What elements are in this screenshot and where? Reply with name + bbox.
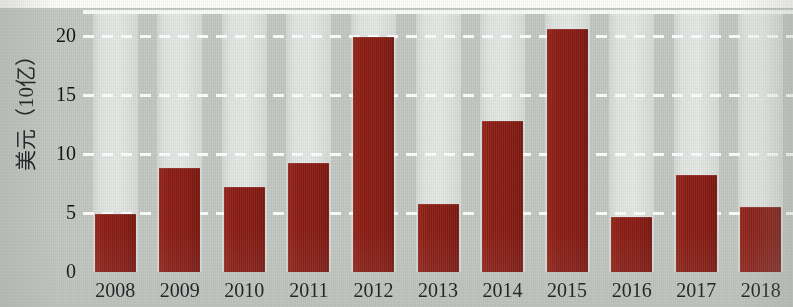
x-tick-label: 2014 (470, 278, 535, 303)
y-tick-label: 0 (28, 261, 76, 281)
x-tick-label: 2017 (664, 278, 729, 303)
x-tick-label: 2012 (341, 278, 406, 303)
x-tick-label: 2013 (406, 278, 471, 303)
bar-2014 (482, 121, 523, 272)
bar-2010 (224, 187, 265, 272)
x-tick-label: 2010 (212, 278, 277, 303)
x-axis-tick-labels: 2008200920102011201220132014201520162017… (83, 278, 793, 307)
x-tick-label: 2011 (277, 278, 342, 303)
x-tick-label: 2018 (728, 278, 793, 303)
y-axis-title: 美元（10亿） (13, 8, 39, 208)
bar-2018 (740, 207, 781, 272)
bar-2016 (611, 217, 652, 272)
x-tick-label: 2015 (535, 278, 600, 303)
bar-2012 (353, 37, 394, 272)
bar-2008 (95, 214, 136, 272)
bar-2013 (418, 204, 459, 272)
bar-2015 (547, 29, 588, 272)
gridline (83, 153, 793, 156)
gridline (83, 35, 793, 38)
gridline (83, 94, 793, 97)
bar-chart-figure: 05101520 美元（10亿） 20082009201020112012201… (0, 0, 793, 307)
plot-area (83, 10, 793, 272)
x-tick-label: 2008 (83, 278, 148, 303)
x-axis-baseline (83, 10, 793, 14)
page-top-margin (0, 0, 793, 8)
bar-2009 (159, 168, 200, 272)
bar-2011 (288, 163, 329, 272)
bar-2017 (676, 175, 717, 272)
x-tick-label: 2009 (148, 278, 213, 303)
x-tick-label: 2016 (599, 278, 664, 303)
